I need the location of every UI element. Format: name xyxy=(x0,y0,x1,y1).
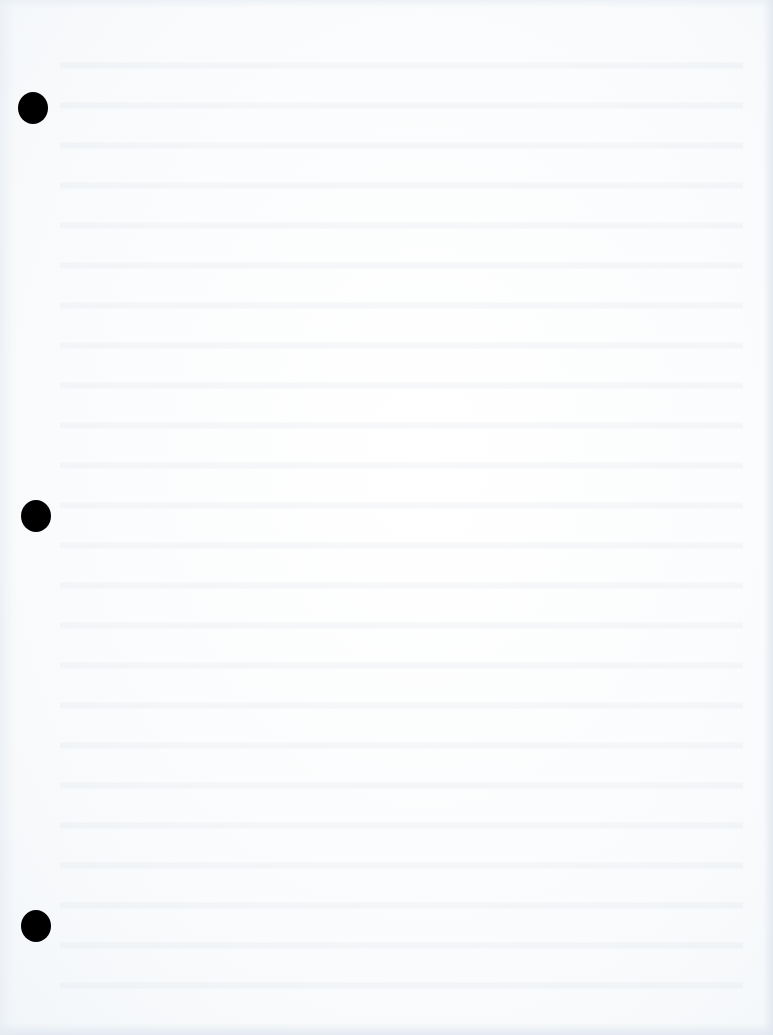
page-text-content xyxy=(0,0,1,1)
punch-hole-top xyxy=(18,92,48,124)
punch-hole-middle xyxy=(21,500,51,532)
punch-hole-bottom xyxy=(21,910,51,942)
paper-show-through-texture xyxy=(60,40,743,995)
blank-paper-page xyxy=(0,0,773,1035)
